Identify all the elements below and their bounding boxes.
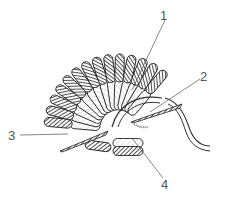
- diagram-figure: 1 2 3 4: [0, 0, 226, 203]
- leader-3: [20, 134, 68, 135]
- filament-fan: [44, 54, 169, 156]
- leader-4: [132, 138, 163, 178]
- filament-lower: [113, 147, 143, 156]
- label-2: 2: [200, 70, 207, 83]
- label-1: 1: [160, 9, 167, 22]
- diagram-svg: [0, 0, 226, 203]
- label-4: 4: [161, 178, 168, 191]
- stipple: [134, 124, 148, 127]
- label-3: 3: [8, 129, 15, 142]
- tube: [165, 98, 210, 146]
